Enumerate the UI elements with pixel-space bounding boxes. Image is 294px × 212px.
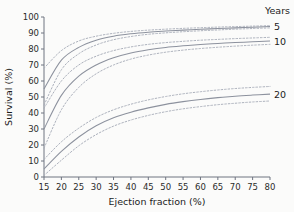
x-tick-label: 60 bbox=[195, 182, 206, 192]
x-tick-label: 50 bbox=[160, 182, 171, 192]
y-axis-title: Survival (%) bbox=[3, 68, 14, 126]
y-tick-label: 20 bbox=[28, 140, 39, 150]
series-label-10: 10 bbox=[274, 36, 286, 47]
y-tick-label: 50 bbox=[28, 92, 39, 102]
survival-chart: 0102030405060708090100 15202530354045505… bbox=[0, 0, 294, 212]
y-tick-label: 80 bbox=[28, 44, 39, 54]
x-tick-label: 35 bbox=[108, 182, 119, 192]
series-label-20: 20 bbox=[274, 89, 286, 100]
y-tick-label: 0 bbox=[34, 172, 39, 182]
x-tick-label: 25 bbox=[73, 182, 84, 192]
x-tick-label: 30 bbox=[91, 182, 102, 192]
x-tick-label: 20 bbox=[56, 182, 67, 192]
y-tick-label: 30 bbox=[28, 124, 39, 134]
x-tick-label: 70 bbox=[230, 182, 241, 192]
x-tick-label: 15 bbox=[39, 182, 50, 192]
x-tick-label: 45 bbox=[143, 182, 154, 192]
x-tick-label: 75 bbox=[247, 182, 258, 192]
series-label-5: 5 bbox=[274, 21, 280, 32]
x-tick-label: 40 bbox=[126, 182, 137, 192]
y-tick-label: 40 bbox=[28, 108, 39, 118]
legend-title: Years bbox=[264, 5, 290, 16]
y-tick-label: 100 bbox=[23, 12, 39, 22]
y-tick-label: 10 bbox=[28, 156, 39, 166]
chart-canvas: 0102030405060708090100 15202530354045505… bbox=[0, 0, 294, 212]
y-tick-label: 70 bbox=[28, 60, 39, 70]
y-tick-label: 60 bbox=[28, 76, 39, 86]
y-tick-label: 90 bbox=[28, 28, 39, 38]
x-tick-label: 65 bbox=[212, 182, 223, 192]
x-tick-label: 55 bbox=[178, 182, 189, 192]
x-tick-label: 80 bbox=[265, 182, 276, 192]
x-axis-title: Ejection fraction (%) bbox=[109, 196, 206, 207]
